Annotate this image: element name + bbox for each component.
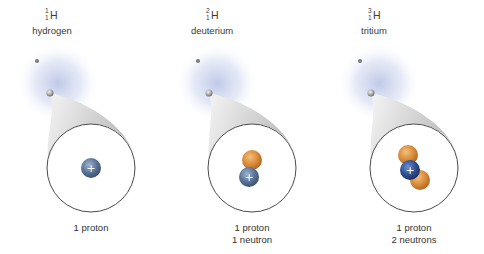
mass-number: 3 — [368, 7, 372, 14]
element-symbol: H — [50, 9, 58, 21]
nucleus-dot — [206, 90, 213, 97]
neutron — [242, 150, 262, 170]
mass-number: 2 — [206, 7, 210, 14]
isotope-symbol-tritium: 31H — [368, 8, 381, 22]
electron — [358, 59, 362, 63]
caption-line: 1 proton — [46, 222, 136, 234]
isotope-symbol-deuterium: 21H — [206, 8, 219, 22]
isotope-name-tritium: tritium — [334, 25, 414, 37]
atom-panel-tritium: + — [337, 43, 458, 212]
atom-panel-hydrogen: + — [16, 43, 135, 212]
nucleus-dot — [368, 90, 375, 97]
atomic-number: 1 — [206, 14, 210, 21]
caption-line: 2 neutrons — [369, 234, 459, 246]
atomic-number: 1 — [45, 14, 49, 21]
caption-line: 1 proton — [369, 222, 459, 234]
plus-sign: + — [405, 164, 414, 177]
electron — [35, 59, 39, 63]
caption-deuterium: 1 proton 1 neutron — [207, 222, 297, 246]
isotope-symbol-hydrogen: 11H — [45, 8, 58, 22]
caption-tritium: 1 proton 2 neutrons — [369, 222, 459, 246]
atom-panel-deuterium: + — [175, 43, 296, 212]
proton: + — [239, 167, 259, 187]
nucleus-dot — [47, 90, 54, 97]
electron — [196, 59, 200, 63]
proton: + — [400, 160, 420, 180]
isotope-diagram: +++ — [0, 0, 484, 254]
caption-line: 1 neutron — [207, 234, 297, 246]
atomic-number: 1 — [368, 14, 372, 21]
plus-sign: + — [86, 162, 95, 175]
element-symbol: H — [373, 9, 381, 21]
isotope-name-deuterium: deuterium — [172, 25, 252, 37]
proton: + — [81, 158, 101, 178]
plus-sign: + — [244, 171, 253, 184]
element-symbol: H — [211, 9, 219, 21]
mass-number: 1 — [45, 7, 49, 14]
caption-hydrogen: 1 proton — [46, 222, 136, 234]
isotope-name-hydrogen: hydrogen — [12, 25, 92, 37]
neutron-sphere — [242, 150, 262, 170]
caption-line: 1 proton — [207, 222, 297, 234]
